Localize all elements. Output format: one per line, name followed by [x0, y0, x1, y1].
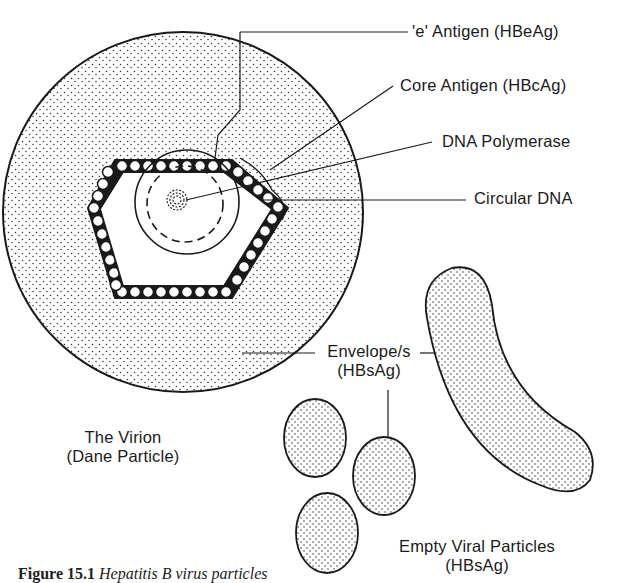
figure-caption-text: Hepatitis B virus particles: [99, 565, 267, 582]
empty-particle-2: [353, 437, 415, 515]
figure-caption-number: Figure 15.1: [18, 565, 95, 582]
label-empty-line2: (HBsAg): [372, 556, 582, 575]
label-e-antigen: 'e' Antigen (HBeAg): [412, 22, 559, 41]
label-envelope: Envelope/s (HBsAg): [316, 342, 422, 380]
label-empty-line1: Empty Viral Particles: [372, 537, 582, 556]
filamentous-particle: [426, 267, 593, 491]
label-envelope-line1: Envelope/s: [316, 342, 422, 361]
label-virion-line2: (Dane Particle): [48, 447, 198, 466]
label-core-antigen: Core Antigen (HBcAg): [400, 76, 566, 95]
figure-caption: Figure 15.1 Hepatitis B virus particles: [18, 565, 267, 583]
label-empty-particles: Empty Viral Particles (HBsAg): [372, 537, 582, 575]
label-envelope-line2: (HBsAg): [316, 361, 422, 380]
label-virion: The Virion (Dane Particle): [48, 428, 198, 466]
empty-particle-3: [296, 493, 358, 573]
label-virion-line1: The Virion: [48, 428, 198, 447]
label-circular-dna: Circular DNA: [474, 189, 573, 208]
empty-particle-1: [284, 399, 346, 477]
label-dna-polymerase: DNA Polymerase: [442, 132, 570, 151]
